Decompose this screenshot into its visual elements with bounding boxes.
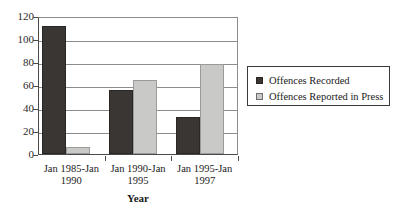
x-axis-category-label-line: Jan 1995-Jan — [166, 163, 244, 175]
legend-swatch-icon — [256, 93, 263, 100]
legend-item-label: Offences Reported in Press — [269, 91, 383, 102]
legend-swatch-icon — [256, 77, 263, 84]
plot-area — [38, 17, 238, 155]
legend-item-label: Offences Recorded — [269, 75, 350, 86]
legend-item: Offences Recorded — [256, 73, 389, 87]
y-axis-tick-mark — [33, 155, 38, 156]
bar — [200, 64, 224, 154]
y-axis-tick-label: 60 — [4, 80, 34, 91]
category-separator-tick — [171, 156, 172, 161]
y-axis-tick-label: 80 — [4, 57, 34, 68]
bar — [109, 90, 133, 154]
y-axis-tick-label: 20 — [4, 126, 34, 137]
y-axis-tick-label: 120 — [4, 11, 34, 22]
legend-item: Offences Reported in Press — [256, 89, 389, 103]
bar — [66, 147, 90, 154]
bar — [42, 26, 66, 154]
y-axis-tick-label: 40 — [4, 103, 34, 114]
category-separator-tick — [105, 156, 106, 161]
x-axis-category-label-line: 1997 — [166, 175, 244, 187]
bar-chart: 020406080100120 Jan 1985-Jan1990Jan 1990… — [0, 0, 397, 218]
x-axis-title: Year — [38, 192, 238, 204]
x-axis-category-label: Jan 1995-Jan1997 — [166, 163, 244, 187]
category-separator-tick — [238, 156, 239, 161]
legend: Offences Recorded Offences Reported in P… — [247, 66, 390, 106]
y-axis-tick-label: 0 — [4, 149, 34, 160]
y-axis-tick-label: 100 — [4, 34, 34, 45]
bar — [176, 117, 200, 154]
bar — [133, 80, 157, 154]
bars-layer — [39, 18, 237, 154]
